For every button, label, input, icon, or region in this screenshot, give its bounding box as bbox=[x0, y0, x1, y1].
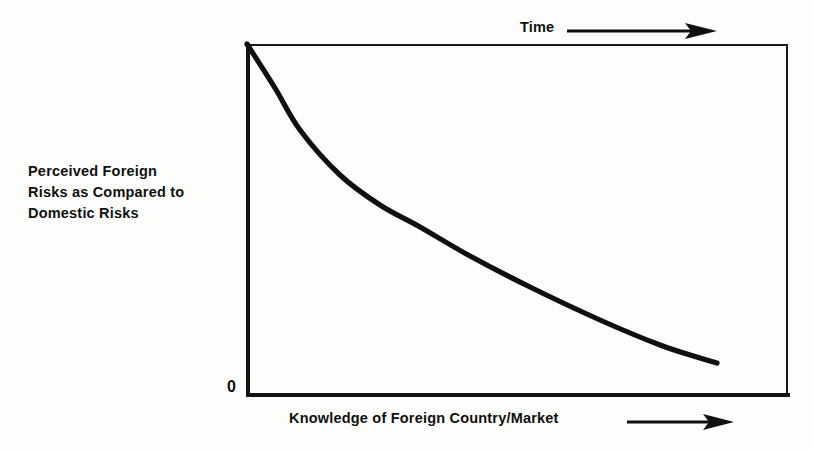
right-arrow-icon bbox=[625, 413, 737, 431]
time-axis-label: Time bbox=[520, 19, 554, 35]
y-axis-label-line-3: Domestic Risks bbox=[28, 203, 238, 224]
x-axis-label: Knowledge of Foreign Country/Market bbox=[289, 410, 559, 426]
y-axis-label-line-2: Risks as Compared to bbox=[28, 182, 238, 203]
figure-canvas: Perceived Foreign Risks as Compared to D… bbox=[0, 0, 813, 451]
x-axis-line bbox=[246, 393, 790, 397]
right-arrow-icon bbox=[565, 22, 720, 40]
y-axis-label: Perceived Foreign Risks as Compared to D… bbox=[28, 161, 238, 224]
plot-frame bbox=[247, 44, 788, 395]
y-axis-zero-tick-label: 0 bbox=[227, 378, 236, 396]
y-axis-label-line-1: Perceived Foreign bbox=[28, 161, 238, 182]
y-axis-line bbox=[246, 43, 250, 397]
